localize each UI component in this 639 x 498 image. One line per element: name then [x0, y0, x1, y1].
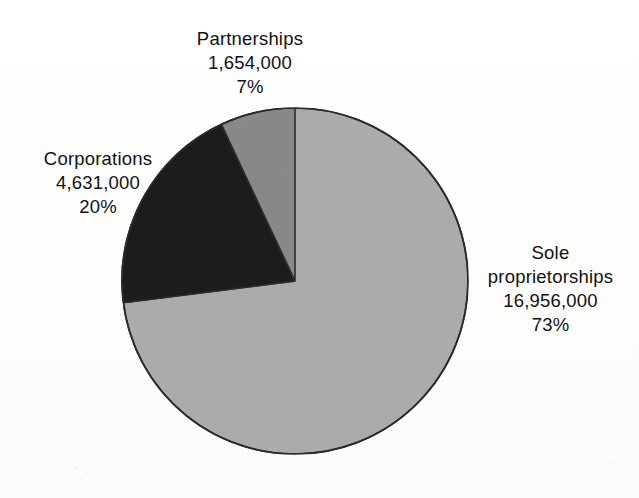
- slice-label-sole-name-line2: proprietorships: [462, 265, 639, 289]
- slice-label-sole-proprietorships: Sole proprietorships 16,956,000 73%: [462, 241, 639, 337]
- slice-label-partnerships-name: Partnerships: [150, 27, 350, 51]
- slice-label-corporations-name: Corporations: [7, 147, 189, 171]
- slice-label-partnerships-percent: 7%: [150, 75, 350, 99]
- slice-label-sole-value: 16,956,000: [462, 289, 639, 313]
- slice-label-sole-name-line1: Sole: [462, 241, 639, 265]
- slice-label-partnerships: Partnerships 1,654,000 7%: [150, 27, 350, 99]
- pie-chart-figure: Partnerships 1,654,000 7% Corporations 4…: [0, 0, 639, 498]
- slice-label-corporations-value: 4,631,000: [7, 171, 189, 195]
- slice-label-corporations: Corporations 4,631,000 20%: [7, 147, 189, 219]
- slice-label-partnerships-value: 1,654,000: [150, 51, 350, 75]
- slice-label-sole-percent: 73%: [462, 313, 639, 337]
- slice-label-corporations-percent: 20%: [7, 195, 189, 219]
